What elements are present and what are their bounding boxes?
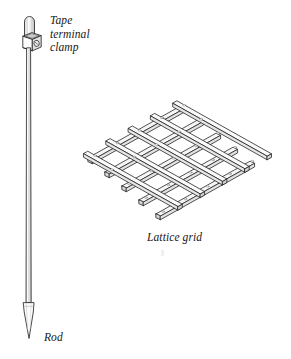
rod-shaft: [26, 48, 31, 303]
lattice-grid: [84, 101, 272, 220]
lattice-bars-upper: [84, 101, 272, 210]
rod-pointed-tip: [23, 303, 34, 339]
tape-terminal-clamp: [23, 33, 41, 51]
rod-assembly: [23, 17, 41, 339]
label-rod: Rod: [44, 331, 63, 345]
scan-artifact-mark: [161, 250, 164, 256]
label-lattice-grid: Lattice grid: [147, 231, 202, 245]
technical-illustration: [0, 0, 291, 359]
label-tape-terminal-clamp: Tape terminal clamp: [50, 14, 90, 55]
